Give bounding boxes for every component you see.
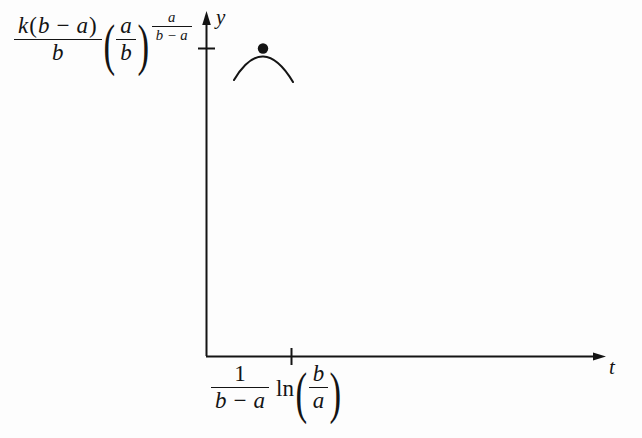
y-label-exponent-numerator: a — [152, 10, 192, 27]
y-label-close-paren-2: ) — [137, 28, 149, 63]
x-label-close-paren: ) — [330, 376, 342, 411]
y-axis-label: y — [216, 6, 225, 28]
y-label-exponent-fraction: a b − a — [152, 10, 192, 44]
y-label-base-denominator: b — [116, 40, 136, 65]
y-label-k: k — [18, 13, 28, 38]
y-label-base-fraction: a b — [116, 14, 136, 65]
y-label-leading-fraction: k(b − a) b — [14, 14, 102, 65]
x-axis-tick-label: 1 b − a ln( b a ) — [211, 362, 343, 413]
y-axis-arrowhead — [202, 11, 211, 25]
y-label-close-paren-1: ) — [88, 13, 98, 38]
y-label-base-numerator: a — [116, 14, 136, 40]
x-axis-arrowhead — [593, 352, 606, 360]
x-label-argument-fraction: b a — [309, 362, 329, 413]
y-label-exponent-denominator: b − a — [152, 27, 192, 43]
y-label-b-minus-a: b − a — [38, 13, 88, 38]
y-label-denominator: b — [14, 40, 102, 65]
y-label-open-paren-1: ( — [28, 13, 38, 38]
x-label-argument-numerator: b — [309, 362, 329, 388]
y-label-open-paren-2: ( — [103, 28, 115, 63]
y-label-numerator: k(b − a) — [14, 14, 102, 40]
x-label-ln-operator: ln — [269, 376, 294, 401]
y-axis-tick-label: k(b − a) b ( a b ) a b − a — [14, 14, 191, 65]
x-label-numerator: 1 — [211, 362, 269, 388]
x-label-open-paren: ( — [295, 376, 307, 411]
y-label-exponent: a b − a — [152, 10, 192, 44]
x-label-leading-fraction: 1 b − a — [211, 362, 269, 413]
x-axis-label: t — [609, 356, 615, 378]
curve-path — [234, 56, 293, 82]
x-label-denominator: b − a — [211, 388, 269, 413]
math-figure: y t k(b − a) b ( a b ) a b − a 1 b − a l… — [0, 0, 642, 438]
maximum-point-marker — [258, 43, 268, 53]
x-label-argument-denominator: a — [309, 388, 329, 413]
